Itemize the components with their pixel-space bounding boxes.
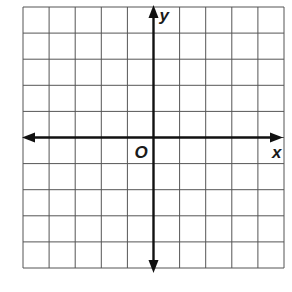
arrow-right-icon [270, 133, 283, 143]
y-axis-label: y [159, 6, 171, 25]
y-axis [149, 5, 159, 273]
coordinate-plane: y x O [0, 0, 292, 292]
arrow-left-icon [22, 133, 35, 143]
origin-label: O [135, 143, 148, 162]
arrow-down-icon [149, 260, 159, 273]
x-axis-label: x [271, 143, 283, 162]
